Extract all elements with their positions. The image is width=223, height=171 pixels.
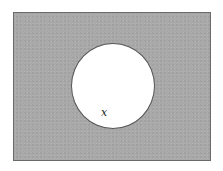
set-x-label: x [101,107,107,119]
set-x-circle [71,43,155,129]
venn-diagram: x [0,0,223,171]
